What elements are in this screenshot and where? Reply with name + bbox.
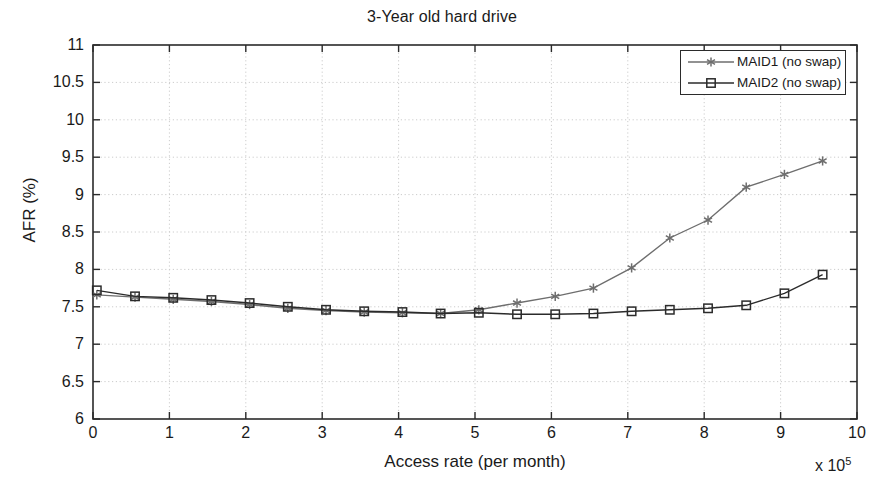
y-tick-label: 9.5 xyxy=(20,148,84,166)
chart-figure: 3-Year old hard drive AFR (%) Access rat… xyxy=(0,0,884,497)
x-tick-label: 4 xyxy=(394,424,403,442)
x-axis-multiplier-exponent: 5 xyxy=(845,455,851,467)
marker-asterisk xyxy=(819,156,827,165)
x-tick-label: 1 xyxy=(165,424,174,442)
y-tick-label: 8.5 xyxy=(20,223,84,241)
x-tick-label: 7 xyxy=(623,424,632,442)
y-tick-label: 6.5 xyxy=(20,373,84,391)
y-tick-label: 10.5 xyxy=(20,73,84,91)
x-tick-label: 10 xyxy=(848,424,866,442)
legend-sample-asterisk xyxy=(685,52,737,72)
marker-asterisk xyxy=(628,263,636,272)
legend-item: MAID1 (no swap) xyxy=(681,51,847,72)
grid-lines xyxy=(93,45,857,419)
x-tick-label: 9 xyxy=(776,424,785,442)
legend-item: MAID2 (no swap) xyxy=(681,72,847,93)
legend-label: MAID1 (no swap) xyxy=(737,55,841,69)
marker-asterisk xyxy=(780,170,788,179)
y-tick-label: 7.5 xyxy=(20,298,84,316)
y-tick-label: 9 xyxy=(20,186,84,204)
legend-sample-square xyxy=(685,73,737,93)
y-tick-label: 10 xyxy=(20,111,84,129)
y-tick-label: 8 xyxy=(20,260,84,278)
chart-legend: MAID1 (no swap)MAID2 (no swap) xyxy=(680,50,846,95)
marker-asterisk xyxy=(666,233,674,242)
x-tick-label: 2 xyxy=(241,424,250,442)
x-tick-label: 6 xyxy=(547,424,556,442)
x-tick-label: 3 xyxy=(318,424,327,442)
series-line xyxy=(97,275,823,315)
x-axis-multiplier-base: x 10 xyxy=(815,457,845,474)
x-tick-label: 0 xyxy=(89,424,98,442)
y-tick-label: 11 xyxy=(20,36,84,54)
x-tick-label: 8 xyxy=(700,424,709,442)
x-axis-label: Access rate (per month) xyxy=(93,452,857,472)
x-axis-multiplier: x 105 xyxy=(815,455,851,475)
legend-label: MAID2 (no swap) xyxy=(737,76,841,90)
series-1 xyxy=(93,156,827,318)
x-tick-label: 5 xyxy=(471,424,480,442)
y-tick-label: 7 xyxy=(20,335,84,353)
y-tick-label: 6 xyxy=(20,410,84,428)
series-line xyxy=(97,161,823,314)
